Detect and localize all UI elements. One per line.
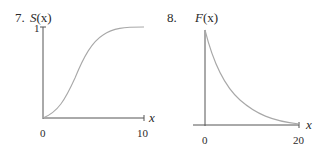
s-curve xyxy=(43,27,144,118)
x-tick-10: 10 xyxy=(137,127,149,139)
y-tick-1: 1 xyxy=(34,22,40,34)
x-tick-0-7: 0 xyxy=(40,127,46,139)
x-tick-20: 20 xyxy=(293,134,305,146)
y-axis-title-8: F(x) xyxy=(194,10,218,25)
problem-number-8: 8. xyxy=(167,10,177,25)
chart-7: 7. S(x) 1 0 10 x xyxy=(15,10,155,139)
decay-curve xyxy=(205,30,299,124)
figure-canvas: 7. S(x) 1 0 10 x 8. F(x) 0 20 x xyxy=(0,0,327,152)
problem-number-7: 7. xyxy=(15,10,25,25)
x-axis-label-8: x xyxy=(305,117,312,132)
chart-8: 8. F(x) 0 20 x xyxy=(167,10,312,146)
x-axis-label-7: x xyxy=(148,110,155,125)
x-tick-0-8: 0 xyxy=(202,134,208,146)
